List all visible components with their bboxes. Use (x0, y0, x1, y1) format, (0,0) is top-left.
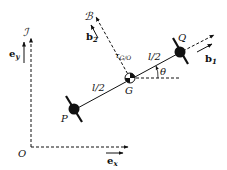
diagram-canvas: ℐ ey ex O θ ℬ b2 τG/O b1 l/2 l/2 P Q G (0, 0, 227, 170)
theta-arc (156, 66, 158, 78)
b1-label: b1 (205, 53, 217, 66)
origin-label: O (18, 148, 26, 159)
ey-label: ey (9, 48, 20, 61)
pg-length-label: l/2 (92, 82, 105, 93)
inertial-frame-label: ℐ (23, 26, 30, 39)
point-p-label: P (60, 113, 68, 124)
torque-label: τG/O (115, 51, 131, 61)
center-of-mass-g (125, 73, 135, 83)
inertial-frame (24, 38, 128, 153)
gq-length-label: l/2 (148, 51, 161, 62)
ex-label: ex (107, 155, 118, 168)
b1-axis-dashed (183, 35, 214, 51)
point-g-label: G (125, 85, 133, 96)
body-frame-label: ℬ (84, 10, 94, 23)
theta-label: θ (160, 66, 166, 77)
b1-arrow (197, 44, 212, 52)
b2-axis-dashed (96, 17, 130, 78)
b2-label: b2 (86, 31, 98, 44)
point-q-label: Q (178, 32, 186, 43)
point-p (66, 96, 82, 122)
